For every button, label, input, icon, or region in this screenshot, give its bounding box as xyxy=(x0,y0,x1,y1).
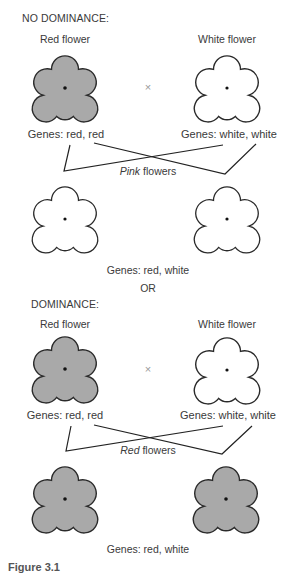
offspring-label-emphasis: Pink xyxy=(120,165,140,177)
flower-offspring-2b xyxy=(193,467,258,533)
offspring-label: Red flowers xyxy=(120,444,175,456)
flower-parent-white-1 xyxy=(194,56,259,122)
offspring-genes: Genes: red, white xyxy=(107,264,189,276)
flower-parent-red-2 xyxy=(32,337,97,403)
parent-right-label: White flower xyxy=(198,33,256,45)
flower-offspring-1b xyxy=(194,187,259,253)
parent-right-label: White flower xyxy=(198,318,256,330)
flower-parent-red-1 xyxy=(32,56,97,122)
flower-offspring-1a xyxy=(32,187,97,253)
section-header-dominance: DOMINANCE: xyxy=(31,298,99,310)
figure-caption: Figure 3.1 xyxy=(8,561,60,573)
flower-center-dot xyxy=(63,86,67,90)
parent-left-label: Red flower xyxy=(40,318,90,330)
parent-left-genes: Genes: red, red xyxy=(28,128,104,140)
offspring-label: Pink flowers xyxy=(120,165,177,177)
or-separator: OR xyxy=(140,282,156,294)
flower-parent-white-2 xyxy=(194,338,259,404)
flower-offspring-2a xyxy=(32,467,97,533)
offspring-genes: Genes: red, white xyxy=(107,543,189,555)
cross-symbol: × xyxy=(145,363,151,375)
section-header-no-dominance: NO DOMINANCE: xyxy=(22,12,109,24)
parent-left-genes: Genes: red, red xyxy=(27,409,103,421)
parent-right-genes: Genes: white, white xyxy=(181,128,277,140)
cross-symbol: × xyxy=(145,81,151,93)
parent-left-label: Red flower xyxy=(40,33,90,45)
parent-right-genes: Genes: white, white xyxy=(180,409,276,421)
offspring-label-emphasis: Red xyxy=(120,444,139,456)
